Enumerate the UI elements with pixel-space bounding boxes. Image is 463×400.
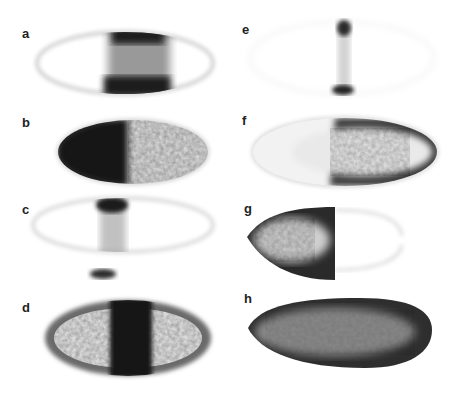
panel-c-embryo [33,197,213,280]
panel-label-a: a [22,26,29,41]
panel-label-d: d [22,300,30,315]
panel-label-f: f [242,113,246,128]
panel-a-embryo [37,28,213,98]
panel-label-g: g [244,201,252,216]
panel-b-embryo [55,118,208,188]
panel-label-b: b [22,115,30,130]
panel-f-embryo [253,118,440,186]
panel-d-embryo [45,298,211,378]
panel-label-h: h [244,291,252,306]
panel-label-e: e [242,22,249,37]
figure-canvas [0,0,463,400]
panel-h-embryo [240,290,440,380]
panel-g-embryo [240,200,402,290]
panel-e-embryo [250,20,434,95]
panel-label-c: c [22,202,29,217]
